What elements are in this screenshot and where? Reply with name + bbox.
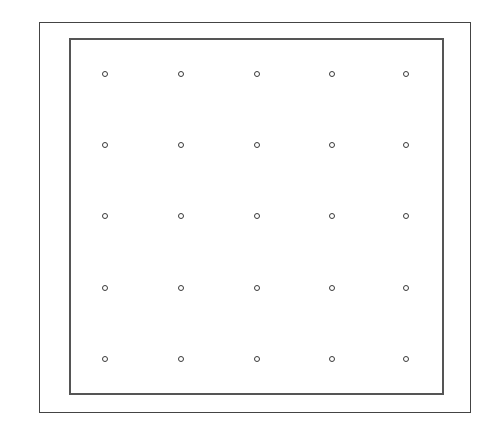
grid-dot — [329, 285, 335, 291]
grid-dot — [403, 356, 409, 362]
grid-dot — [329, 356, 335, 362]
grid-dot — [254, 213, 260, 219]
grid-dot — [102, 213, 108, 219]
grid-dot — [102, 142, 108, 148]
grid-dot — [254, 142, 260, 148]
grid-dot — [254, 71, 260, 77]
grid-dot — [102, 356, 108, 362]
grid-dot — [102, 285, 108, 291]
grid-dot — [403, 142, 409, 148]
grid-dot — [403, 213, 409, 219]
grid-dot — [178, 142, 184, 148]
grid-dot — [178, 285, 184, 291]
grid-dot — [178, 213, 184, 219]
grid-dot — [102, 71, 108, 77]
grid-dot — [254, 285, 260, 291]
grid-dot — [254, 356, 260, 362]
grid-dot — [329, 142, 335, 148]
grid-dot — [329, 71, 335, 77]
grid-dot — [403, 285, 409, 291]
grid-dot — [178, 356, 184, 362]
grid-dot — [403, 71, 409, 77]
grid-dot — [178, 71, 184, 77]
grid-dot — [329, 213, 335, 219]
